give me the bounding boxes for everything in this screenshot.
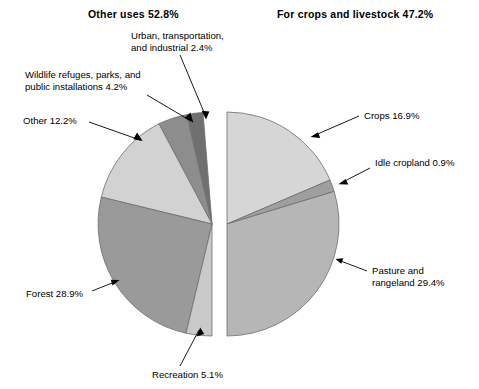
label-other: Other 12.2% (23, 115, 77, 127)
leader-recreation (180, 330, 199, 366)
pie-chart-figure: Other uses 52.8% For crops and livestock… (0, 0, 479, 389)
label-wildlife-refuges: Wildlife refuges, parks, and public inst… (25, 69, 141, 93)
leader-urban (180, 55, 206, 117)
label-idle-cropland: Idle cropland 0.9% (375, 157, 454, 169)
label-recreation: Recreation 5.1% (152, 369, 223, 381)
label-forest: Forest 28.9% (26, 288, 83, 300)
pie-diagram (0, 0, 479, 389)
leader-wildlife (147, 95, 191, 121)
label-pasture-rangeland: Pasture and rangeland 29.4% (372, 265, 445, 289)
leader-pasture (338, 260, 367, 271)
pie-half-other-uses (98, 112, 212, 336)
label-urban-transportation-industrial: Urban, transportation, and industrial 2.… (131, 30, 224, 54)
leader-other (89, 122, 140, 140)
leader-crops (313, 116, 359, 136)
arrowhead-pasture (336, 258, 344, 264)
pie-half-crops-livestock (227, 112, 339, 336)
label-crops: Crops 16.9% (364, 110, 419, 122)
